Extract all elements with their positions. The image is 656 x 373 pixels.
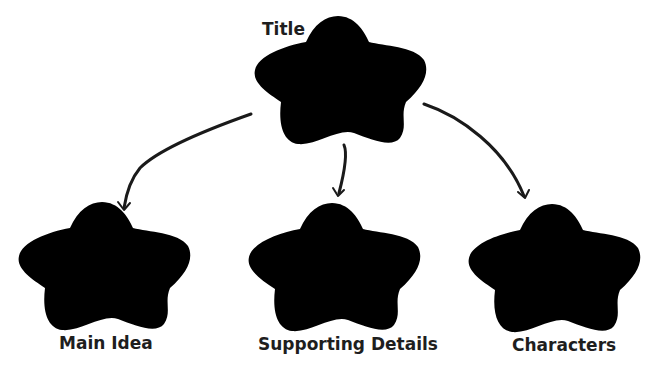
diagram-canvas (0, 0, 656, 373)
arrow-to-characters (424, 104, 529, 198)
characters-blob (469, 204, 641, 332)
characters-label: Characters (512, 335, 616, 355)
arrow-to-main-idea (118, 114, 251, 210)
supporting-details-label: Supporting Details (258, 334, 438, 354)
main-idea-blob (19, 202, 191, 330)
supporting-details-blob (249, 203, 421, 331)
title-label: Title (262, 19, 305, 39)
arrow-to-supporting-details (333, 145, 345, 196)
main-idea-label: Main Idea (59, 333, 153, 353)
